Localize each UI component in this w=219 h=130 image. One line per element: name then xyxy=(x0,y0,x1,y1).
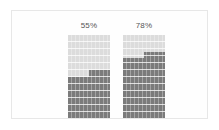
bar-fill-right xyxy=(144,52,165,118)
bar-value-label: 78% xyxy=(123,21,165,31)
screenshot-root: · ·· ·· ···· ·· · ·· ·· · ·· · 55% 78% xyxy=(0,0,219,130)
bar-fill-right xyxy=(89,70,110,118)
bar-track[interactable] xyxy=(68,35,110,118)
bar-group[interactable]: 78% xyxy=(123,21,165,118)
chart-plot-area: 55% 78% xyxy=(12,11,207,118)
chart-card: 55% 78% xyxy=(11,10,208,119)
bar-fill-left xyxy=(123,58,144,118)
clipped-text-line: · ·· ·· ···· ·· · ·· ·· · ·· · xyxy=(2,0,101,2)
clipped-text-strip: · ·· ·· ···· ·· · ·· ·· · ·· · xyxy=(0,0,219,7)
bar-fill-left xyxy=(68,77,89,119)
bar-track[interactable] xyxy=(123,35,165,118)
bar-group[interactable]: 55% xyxy=(68,21,110,118)
bar-value-label: 55% xyxy=(68,21,110,31)
